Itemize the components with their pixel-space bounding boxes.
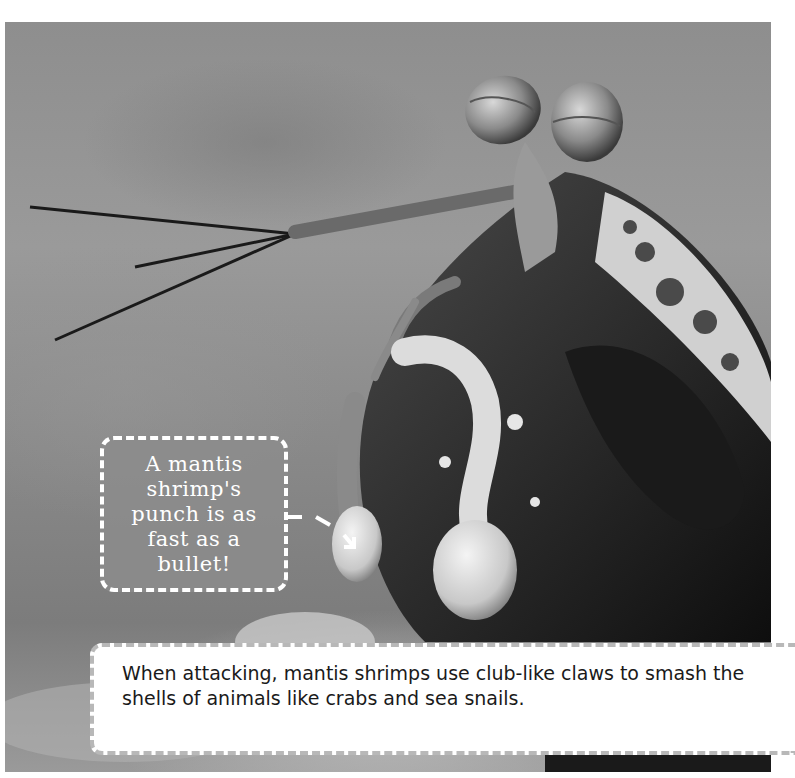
caption-box: When attacking, mantis shrimps use club-… — [90, 643, 795, 755]
caption-text: When attacking, mantis shrimps use club-… — [122, 661, 762, 711]
fact-callout-box: A mantis shrimp's punch is as fast as a … — [100, 436, 288, 592]
fact-callout-text: A mantis shrimp's punch is as fast as a … — [114, 452, 274, 577]
callout-pointer-arrow-icon — [288, 505, 358, 555]
